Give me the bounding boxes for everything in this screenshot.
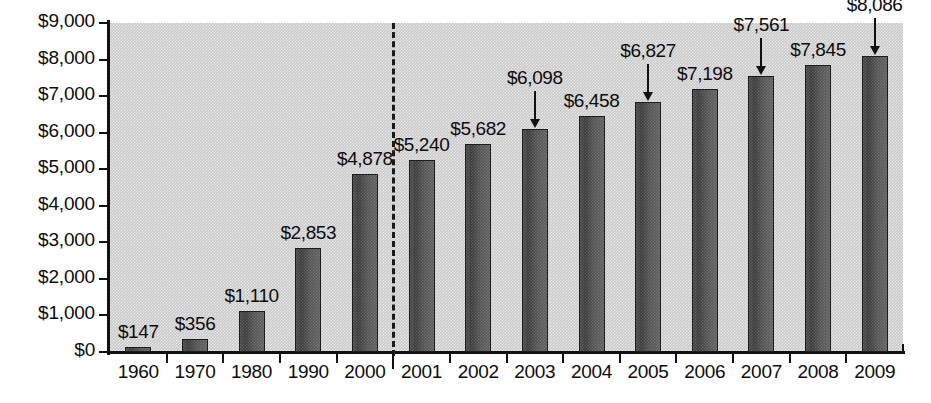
bar-2001[interactable] — [409, 160, 435, 352]
y-axis-tick — [99, 59, 108, 61]
bar-value-label-1970: $356 — [135, 313, 255, 335]
bar-2000[interactable] — [352, 174, 378, 352]
bar-value-label-1990: $2,853 — [248, 222, 368, 244]
arrow-head-2009 — [870, 46, 880, 55]
bar-value-label-2005: $6,827 — [588, 40, 708, 62]
bar-2002[interactable] — [465, 144, 491, 352]
bar-value-label-2002: $5,682 — [418, 118, 538, 140]
y-axis-tick — [99, 95, 108, 97]
arrow-head-2005 — [643, 92, 653, 101]
y-axis-tick — [99, 205, 108, 207]
y-axis-tick-label: $4,000 — [0, 193, 95, 215]
bar-1990[interactable] — [295, 248, 321, 352]
bar-value-label-2008: $7,845 — [758, 39, 878, 61]
bar-value-label-1980: $1,110 — [192, 285, 312, 307]
arrow-head-2007 — [756, 66, 766, 75]
bar-value-label-2003: $6,098 — [475, 67, 595, 89]
y-axis-tick-label: $5,000 — [0, 156, 95, 178]
y-axis-tick — [99, 278, 108, 280]
bar-2007[interactable] — [748, 76, 774, 352]
bar-value-label-2006: $7,198 — [645, 63, 765, 85]
bar-1960[interactable] — [125, 347, 151, 352]
bar-1970[interactable] — [182, 339, 208, 352]
arrow-stem-2009 — [874, 18, 876, 47]
y-axis-tick — [99, 168, 108, 170]
y-axis-tick-label: $3,000 — [0, 229, 95, 251]
x-axis-label-2009: 2009 — [830, 361, 920, 383]
plot-right-edge — [902, 344, 904, 354]
bar-2009[interactable] — [862, 56, 888, 352]
y-axis-tick-label: $8,000 — [0, 47, 95, 69]
bar-1980[interactable] — [239, 311, 265, 352]
bar-2005[interactable] — [635, 102, 661, 352]
divider-dashed-line — [392, 23, 395, 356]
bar-2006[interactable] — [692, 89, 718, 352]
y-axis-tick — [99, 132, 108, 134]
y-axis-tick-label: $2,000 — [0, 266, 95, 288]
bar-2008[interactable] — [805, 65, 831, 352]
bar-value-label-2007: $7,561 — [701, 14, 821, 36]
bar-chart: $0$1,000$2,000$3,000$4,000$5,000$6,000$7… — [0, 0, 931, 403]
y-axis-tick-label: $6,000 — [0, 120, 95, 142]
y-axis-tick — [99, 22, 108, 24]
y-axis-line — [107, 20, 110, 355]
y-axis-tick — [99, 351, 108, 353]
bar-value-label-2009: $8,086 — [815, 0, 931, 16]
y-axis-tick-label: $9,000 — [0, 10, 95, 32]
y-axis-tick — [99, 241, 108, 243]
y-axis-tick-label: $7,000 — [0, 83, 95, 105]
bar-value-label-2004: $6,458 — [532, 90, 652, 112]
arrow-head-2003 — [530, 119, 540, 128]
bar-2004[interactable] — [579, 116, 605, 352]
bar-2003[interactable] — [522, 129, 548, 352]
y-axis-tick — [99, 314, 108, 316]
